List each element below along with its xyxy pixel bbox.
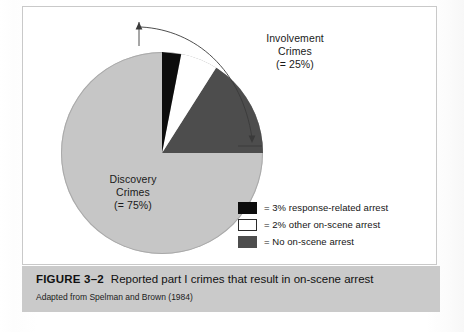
discovery-crimes-label-line3: (= 75%) <box>78 199 188 212</box>
figure-title: Reported part I crimes that result in on… <box>111 273 374 285</box>
legend-item: = 3% response-related arrest <box>238 199 428 216</box>
legend-label-no-on-scene-arrest: = No on-scene arrest <box>264 236 354 247</box>
legend-item: = No on-scene arrest <box>238 233 428 250</box>
figure-source-note: Adapted from Spelman and Brown (1984) <box>36 292 193 302</box>
legend-item: = 2% other on-scene arrest <box>238 216 428 233</box>
figure-number: FIGURE 3–2 <box>36 273 104 285</box>
legend-label-response-related-arrest: = 3% response-related arrest <box>264 202 388 213</box>
involvement-crimes-label-line2: Crimes <box>243 45 347 58</box>
pie-chart <box>61 52 263 254</box>
involvement-crimes-label: Involvement Crimes (= 25%) <box>243 32 347 71</box>
legend-swatch-no-on-scene-arrest <box>238 236 257 248</box>
chart-legend: = 3% response-related arrest = 2% other … <box>238 199 428 250</box>
pie-slice-discovery-crimes <box>61 52 263 254</box>
figure-caption: FIGURE 3–2Reported part I crimes that re… <box>36 273 374 285</box>
legend-swatch-response-related-arrest <box>238 202 257 214</box>
discovery-crimes-label-line1: Discovery <box>78 173 188 186</box>
discovery-crimes-label-line2: Crimes <box>78 186 188 199</box>
legend-label-other-on-scene-arrest: = 2% other on-scene arrest <box>264 219 380 230</box>
legend-swatch-other-on-scene-arrest <box>238 219 257 231</box>
involvement-crimes-label-line1: Involvement <box>243 32 347 45</box>
figure-caption-band: FIGURE 3–2Reported part I crimes that re… <box>22 266 440 312</box>
involvement-crimes-label-line3: (= 25%) <box>243 58 347 71</box>
discovery-crimes-label: Discovery Crimes (= 75%) <box>78 173 188 212</box>
